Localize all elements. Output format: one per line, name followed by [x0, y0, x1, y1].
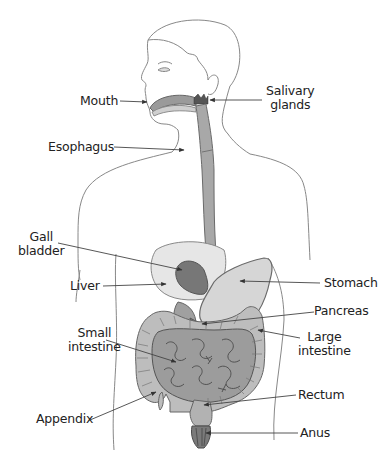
label-salivary-line1: Salivary: [266, 84, 315, 98]
label-gall-line2: bladder: [18, 244, 64, 258]
rectum: [190, 400, 212, 426]
label-small-line1: Small: [68, 326, 121, 340]
label-large-intestine: Large intestine: [298, 330, 351, 358]
anal-canal: [191, 426, 210, 448]
label-large-line1: Large: [298, 330, 351, 344]
digestive-system-diagram: Mouth Salivary glands Esophagus Gall bla…: [0, 0, 386, 460]
label-anus: Anus: [300, 426, 330, 440]
label-appendix: Appendix: [36, 412, 93, 426]
label-liver: Liver: [70, 279, 100, 293]
label-small-line2: intestine: [68, 340, 121, 354]
label-salivary-glands: Salivary glands: [266, 84, 315, 112]
label-large-line2: intestine: [298, 344, 351, 358]
label-mouth: Mouth: [80, 94, 118, 108]
label-pancreas: Pancreas: [314, 304, 369, 318]
label-gall-bladder: Gall bladder: [18, 230, 64, 258]
label-stomach: Stomach: [324, 276, 378, 290]
label-esophagus: Esophagus: [48, 140, 114, 154]
label-small-intestine: Small intestine: [68, 326, 121, 354]
label-gall-line1: Gall: [18, 230, 64, 244]
small-intestine: [152, 329, 256, 403]
label-rectum: Rectum: [298, 388, 345, 402]
label-salivary-line2: glands: [266, 98, 315, 112]
